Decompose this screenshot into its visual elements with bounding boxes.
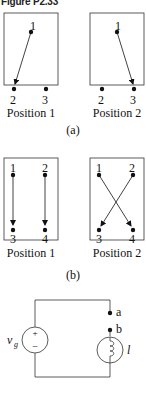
minus-sign: − <box>32 341 38 352</box>
terminal-a-label: a <box>116 305 122 319</box>
part-caption: (a) <box>66 123 79 137</box>
terminal-a-dot <box>108 311 112 315</box>
position-label: Position 2 <box>93 246 141 260</box>
terminal-dot <box>12 87 16 91</box>
circuit: + − v g a b l <box>7 300 131 377</box>
switch-arrow <box>101 175 133 226</box>
lamp-label: l <box>127 343 131 357</box>
switch-arrow <box>15 32 31 84</box>
part-caption: (b) <box>66 268 80 282</box>
terminal-label: 2 <box>10 93 16 107</box>
switch-b-position-2: 1 2 3 4 <box>90 158 144 246</box>
source-label: v <box>7 333 13 347</box>
lamp-filament <box>110 337 114 363</box>
switch-arrow <box>99 175 131 226</box>
source-subscript: g <box>14 340 18 349</box>
terminal-dot <box>100 87 104 91</box>
terminal-dot <box>44 87 48 91</box>
switch-b-position-1: 1 2 3 4 <box>4 158 58 246</box>
position-label: Position 2 <box>93 106 141 120</box>
position-label: Position 1 <box>7 246 55 260</box>
position-label: Position 1 <box>7 106 55 120</box>
terminal-label: 4 <box>42 232 48 246</box>
switch-a-position-2: 1 <box>90 13 144 91</box>
terminal-b-label: b <box>116 322 122 336</box>
terminal-label: 3 <box>42 93 48 107</box>
figure-canvas: 1 1 2 3 2 3 Position 1 Position 2 (a) 1 … <box>0 0 146 394</box>
plus-sign: + <box>32 328 37 338</box>
terminal-label: 3 <box>130 93 136 107</box>
switch-arrow <box>117 32 133 84</box>
terminal-label: 2 <box>129 161 135 175</box>
terminal-dot <box>132 87 136 91</box>
terminal-label: 4 <box>129 232 135 246</box>
terminal-label: 2 <box>98 93 104 107</box>
terminal-label: 3 <box>96 232 102 246</box>
switch-a-position-1: 1 <box>4 13 58 91</box>
terminal-label: 3 <box>10 232 16 246</box>
